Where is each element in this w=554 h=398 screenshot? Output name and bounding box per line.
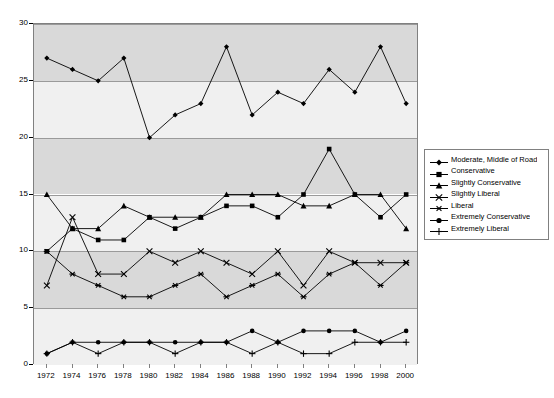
data-point (250, 329, 255, 334)
legend-item-label: Conservative (451, 167, 495, 175)
x-axis-tick-mark (328, 364, 329, 368)
data-point (198, 272, 204, 276)
diamond-marker-icon (429, 154, 451, 165)
series-moderate-middle-of-road (44, 44, 409, 140)
data-point (300, 350, 306, 356)
x-axis-tick-mark (354, 364, 355, 368)
legend-item-label: Extremely Liberal (451, 225, 509, 233)
y-axis-tick-label: 25 (2, 76, 28, 84)
square-marker-icon (429, 166, 451, 177)
data-point (378, 44, 383, 49)
cross-marker-icon (429, 189, 451, 200)
data-point (300, 295, 306, 299)
legend-item-conservative[interactable]: Conservative (429, 166, 545, 178)
data-point (250, 204, 255, 209)
data-point (326, 248, 332, 254)
data-point (326, 350, 332, 356)
data-point (146, 339, 152, 345)
data-point (275, 248, 281, 254)
x-axis-tick-mark (46, 364, 47, 368)
data-point (404, 192, 409, 197)
series-line (47, 195, 406, 229)
series-slightly-liberal (44, 214, 409, 288)
x-axis-tick-mark (200, 364, 201, 368)
data-point (96, 238, 101, 243)
legend-item-moderate-middle-of-road[interactable]: Moderate, Middle of Road (429, 154, 545, 166)
y-axis-tick-mark (29, 194, 33, 195)
y-axis-tick-label: 30 (2, 19, 28, 27)
y-axis-tick-mark (29, 250, 33, 251)
legend-item-liberal[interactable]: Liberal (429, 200, 545, 212)
x-axis-tick-mark (380, 364, 381, 368)
y-axis-tick-mark (29, 23, 33, 24)
data-point (44, 56, 49, 61)
data-point (377, 283, 383, 287)
x-axis-tick-mark (226, 364, 227, 368)
data-point (224, 204, 229, 209)
data-point (352, 260, 358, 264)
data-point (173, 340, 178, 345)
legend-item-extremely-liberal[interactable]: Extremely Liberal (429, 223, 545, 235)
series-line (47, 149, 406, 251)
data-point (147, 248, 153, 254)
data-point (44, 192, 50, 198)
x-axis-tick-mark (72, 364, 73, 368)
data-point (224, 260, 230, 266)
data-point (173, 226, 178, 231)
plot-area (33, 23, 418, 364)
data-point (70, 67, 75, 72)
data-point (96, 340, 101, 345)
data-point (301, 283, 307, 289)
data-point (70, 214, 76, 220)
legend-item-label: Slightly Liberal (451, 190, 500, 198)
legend-item-label: Slightly Conservative (451, 179, 521, 187)
data-point (121, 295, 127, 299)
data-point (172, 350, 178, 356)
data-point (275, 272, 281, 276)
y-axis-tick-label: 5 (2, 303, 28, 311)
data-point (404, 101, 409, 106)
data-point (301, 192, 306, 197)
data-point (327, 147, 332, 152)
x-axis-tick-mark (251, 364, 252, 368)
y-axis-tick-mark (29, 307, 33, 308)
data-point (403, 260, 409, 264)
triangle-marker-icon (429, 177, 451, 188)
asterisk-marker-icon (429, 200, 451, 211)
data-point (249, 283, 255, 287)
data-point (146, 295, 152, 299)
data-point (198, 101, 203, 106)
x-axis-tick-label: 2000 (390, 372, 420, 380)
legend-item-slightly-conservative[interactable]: Slightly Conservative (429, 177, 545, 189)
legend-item-slightly-liberal[interactable]: Slightly Liberal (429, 189, 545, 201)
data-point (122, 238, 127, 243)
legend-item-extremely-conservative[interactable]: Extremely Conservative (429, 212, 545, 224)
data-point (44, 283, 50, 289)
data-point (172, 283, 178, 287)
data-point (223, 339, 229, 345)
series-conservative (45, 147, 409, 254)
data-point (224, 44, 229, 49)
y-axis-tick-mark (29, 137, 33, 138)
data-point (327, 329, 332, 334)
y-axis-tick-label: 20 (2, 133, 28, 141)
data-point (377, 339, 383, 345)
y-axis-tick-label: 15 (2, 190, 28, 198)
x-axis-tick-mark (277, 364, 278, 368)
data-point (352, 339, 358, 345)
series-line (47, 217, 406, 285)
data-point (275, 339, 281, 345)
series-slightly-conservative (44, 192, 409, 232)
data-point (378, 215, 383, 220)
data-point (44, 350, 50, 356)
data-point (198, 248, 204, 254)
series-layer (34, 24, 419, 365)
legend-item-label: Extremely Conservative (451, 213, 530, 221)
data-point (249, 271, 255, 277)
plus-marker-icon (429, 223, 451, 234)
data-point (326, 272, 332, 276)
data-point (403, 339, 409, 345)
x-axis-tick-mark (174, 364, 175, 368)
data-point (95, 283, 101, 287)
chart-container: Moderate, Middle of RoadConservativeSlig… (0, 0, 554, 398)
